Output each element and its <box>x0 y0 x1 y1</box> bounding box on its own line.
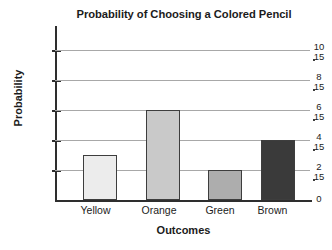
fraction-bar-icon <box>313 119 315 121</box>
chart-title: Probability of Choosing a Colored Pencil <box>48 8 320 20</box>
y-axis-title: Probability <box>12 58 24 138</box>
x-tick-label-orange: Orange <box>125 204 193 216</box>
x-tick-label-brown: Brown <box>241 204 304 216</box>
gridline <box>55 110 310 111</box>
bar-yellow[interactable] <box>83 155 117 200</box>
gridline <box>55 80 310 81</box>
x-axis-title: Outcomes <box>55 224 312 236</box>
gridline <box>55 50 310 51</box>
x-axis-line <box>55 200 312 202</box>
bar-orange[interactable] <box>146 110 180 200</box>
x-tick-label-yellow: Yellow <box>63 204 128 216</box>
fraction-bar-icon <box>313 149 315 151</box>
bar-chart: Probability of Choosing a Colored Pencil… <box>0 0 332 250</box>
bar-brown[interactable] <box>261 140 295 200</box>
fraction-bar-icon <box>313 89 315 91</box>
fraction-bar-icon <box>313 179 315 181</box>
bar-green[interactable] <box>208 170 242 200</box>
plot-area <box>55 30 310 200</box>
fraction-bar-icon <box>313 59 315 61</box>
